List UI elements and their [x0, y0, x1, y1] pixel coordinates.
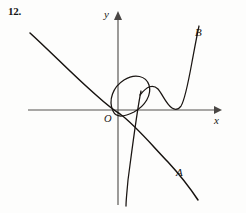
curve-a-path: [30, 33, 198, 200]
y-axis-arrow-icon: [114, 11, 122, 20]
figure-container: 12. y x O A B: [0, 0, 246, 213]
y-axis-label: y: [104, 8, 109, 20]
origin-label: O: [104, 113, 112, 124]
x-axis-label: x: [214, 114, 219, 126]
curve-a-label: A: [176, 166, 183, 178]
x-axis-arrow-icon: [214, 106, 222, 114]
coordinate-figure-svg: [0, 0, 246, 213]
curve-b-label: B: [195, 26, 202, 38]
